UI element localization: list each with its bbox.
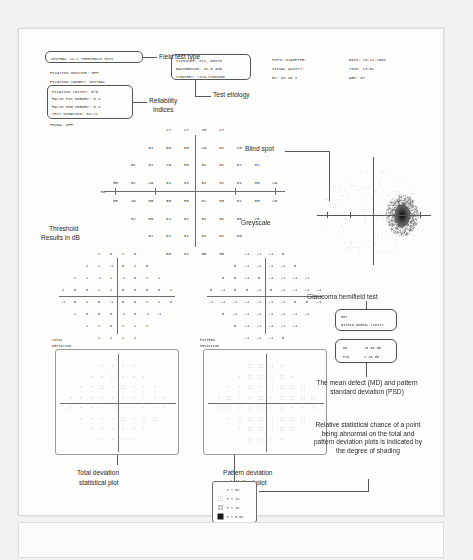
pattern-deviation-value: 0 [282, 336, 284, 340]
total-deviation-value: 2 [86, 264, 88, 268]
greyscale-axis-tick [350, 212, 351, 218]
pattern-deviation-value: 0 [234, 264, 236, 268]
pattern-deviation-value: -2 [221, 288, 226, 292]
pattern-dev-prob-symbol [258, 385, 263, 390]
threshold-value: 30 [254, 180, 259, 185]
total-dev-prob-symbol [100, 364, 105, 369]
page-background: CENTRAL 24-2 THRESHOLD TEST FIXATION MON… [0, 0, 473, 560]
annotation-field-test-type: Field test type [159, 53, 200, 62]
total-dev-plot-vertical-axis [118, 354, 119, 452]
total-deviation-value: 0 [146, 264, 148, 268]
threshold-value: 29 [272, 180, 277, 185]
threshold-value: 32 [148, 233, 153, 238]
pattern-dev-prob-symbol [227, 385, 232, 390]
annotation-threshold-line2: Results in dB [41, 234, 80, 243]
threshold-value: 31 [219, 233, 224, 238]
greyscale-map [315, 155, 433, 267]
pattern-dev-prob-symbol [248, 437, 253, 442]
leader-blind-spot-v [329, 151, 330, 201]
total-dev-prob-symbol [110, 385, 115, 390]
total-deviation-value: 1 [98, 336, 100, 340]
total-dev-prob-symbol [152, 395, 157, 400]
exam-time-line: TIME: 13:52 [349, 66, 374, 72]
threshold-value: 30 [184, 162, 189, 167]
total-deviation-value: 0 [134, 276, 136, 280]
pattern-deviation-value: -1 [209, 300, 214, 304]
pattern-deviation-value: -1 [245, 324, 250, 328]
total-deviation-value: 1 [86, 300, 88, 304]
pattern-dev-prob-symbol [227, 406, 232, 411]
total-deviation-value: 1 [122, 252, 124, 256]
total-dev-prob-symbol [79, 395, 84, 400]
pattern-dev-prob-symbol [300, 416, 305, 421]
pattern-deviation-value: -1 [245, 264, 250, 268]
threshold-value: 34 [184, 180, 189, 185]
threshold-value: 30 [166, 197, 171, 202]
total-deviation-value: -1 [109, 300, 114, 304]
total-dev-prob-symbol [152, 385, 157, 390]
total-dev-prob-symbol [89, 374, 94, 379]
total-dev-prob-symbol [142, 416, 147, 421]
pattern-deviation-value: -1 [293, 312, 298, 316]
pattern-deviation-value: -1 [281, 324, 286, 328]
threshold-value: 32 [237, 162, 242, 167]
legend-symbol-p5 [217, 486, 224, 493]
leader-total-dev-plot [117, 455, 118, 465]
pattern-deviation-value: -1 [293, 288, 298, 292]
total-deviation-value: 2 [62, 288, 64, 292]
test-title: CENTRAL 24-2 THRESHOLD TEST [51, 56, 113, 62]
pattern-dev-prob-symbol [290, 395, 295, 400]
threshold-vertical-axis [195, 135, 196, 247]
pattern-deviation-value: -1 [245, 300, 250, 304]
total-deviation-value: 1 [158, 276, 160, 280]
pattern-deviation-value: -1 [257, 312, 262, 316]
pattern-dev-prob-symbol [290, 406, 295, 411]
leader-legend-box [234, 455, 235, 481]
total-dev-prob-symbol [131, 416, 136, 421]
total-dev-prob-symbol [89, 385, 94, 390]
total-dev-prob-symbol [121, 437, 126, 442]
pattern-deviation-value: -1 [293, 324, 298, 328]
annotation-greyscale: Greyscale [241, 219, 271, 228]
total-dev-prob-symbol [152, 416, 157, 421]
pattern-dev-prob-symbol [216, 406, 221, 411]
pattern-dev-prob-symbol [269, 374, 274, 379]
pattern-deviation-value: 0 [234, 288, 236, 292]
pattern-dev-prob-symbol [248, 416, 253, 421]
leader-md-psd [366, 363, 367, 377]
threshold-value: 31 [166, 180, 171, 185]
threshold-value: 32 [184, 250, 189, 255]
psd-label: PSD [343, 354, 349, 360]
leader-ght [366, 301, 367, 309]
pattern-dev-prob-symbol [269, 437, 274, 442]
total-deviation-value: 2 [86, 324, 88, 328]
total-deviation-value: 0 [86, 288, 88, 292]
annotation-test-etiology: Test etiology [213, 91, 250, 100]
pattern-dev-prob-symbol [258, 374, 263, 379]
pattern-dev-prob-symbol [290, 374, 295, 379]
total-deviation-value: 1 [146, 276, 148, 280]
pattern-deviation-value: 0 [222, 276, 224, 280]
total-deviation-value: 0 [74, 288, 76, 292]
total-deviation-value: 1 [110, 276, 112, 280]
pattern-deviation-value: -1 [281, 276, 286, 280]
pattern-dev-prob-symbol [279, 395, 284, 400]
total-dev-prob-symbol [79, 406, 84, 411]
threshold-value: 30 [113, 180, 118, 185]
legend-row: P < 0.5% [217, 512, 256, 521]
total-deviation-value: 1 [98, 252, 100, 256]
total-deviation-value: 0 [98, 312, 100, 316]
pattern-deviation-value: 0 [234, 324, 236, 328]
pattern-deviation-value: -1 [269, 312, 274, 316]
pattern-dev-prob-symbol [237, 427, 242, 432]
annotation-pattern-dev-plot-line1: Pattern deviation [223, 469, 273, 478]
pattern-dev-plot-vertical-axis [266, 354, 267, 452]
total-deviation-value: -1 [145, 312, 150, 316]
threshold-axis-tick [155, 188, 156, 195]
total-deviation-value: -1 [121, 312, 126, 316]
total-dev-prob-symbol [100, 385, 105, 390]
threshold-value: 31 [237, 180, 242, 185]
legend-symbol-p05 [217, 513, 224, 520]
total-dev-prob-symbol [142, 406, 147, 411]
legend-symbol-p1 [217, 504, 224, 511]
